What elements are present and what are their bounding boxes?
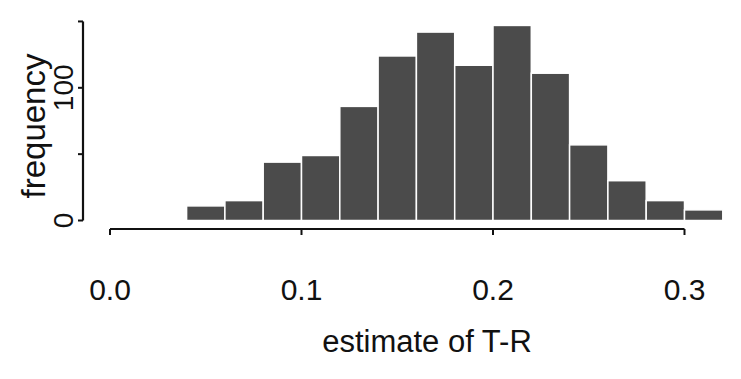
y-tick-label: 0 — [48, 213, 79, 229]
histogram-bar — [148, 219, 186, 220]
histogram-chart: 0.00.10.20.3 0100 estimate of T-R freque… — [0, 0, 741, 379]
histogram-bars — [110, 25, 723, 220]
histogram-bar — [531, 73, 569, 220]
histogram-bar — [302, 155, 340, 220]
x-tick-label: 0.3 — [664, 273, 706, 306]
histogram-bar — [263, 162, 301, 220]
histogram-bar — [570, 145, 608, 221]
x-tick-label: 0.0 — [89, 273, 131, 306]
histogram-bar — [340, 106, 378, 220]
histogram-bar — [110, 219, 148, 220]
histogram-bar — [646, 201, 684, 221]
y-axis-title: frequency — [15, 53, 52, 198]
y-axis-ticks: 0100 — [48, 21, 83, 228]
histogram-bar — [685, 210, 723, 221]
histogram-bar — [225, 201, 263, 221]
histogram-bar — [187, 206, 225, 221]
x-axis-ticks: 0.00.10.20.3 — [89, 229, 705, 306]
histogram-bar — [378, 56, 416, 221]
histogram-bar — [416, 32, 454, 220]
histogram-bar — [608, 181, 646, 221]
x-axis-title: estimate of T-R — [322, 324, 532, 359]
x-axis: 0.00.10.20.3 — [89, 229, 705, 306]
histogram-bar — [455, 65, 493, 220]
x-tick-label: 0.1 — [281, 273, 323, 306]
y-tick-label: 100 — [48, 64, 79, 111]
y-axis: 0100 — [48, 21, 83, 228]
histogram-bar — [493, 25, 531, 220]
x-tick-label: 0.2 — [472, 273, 514, 306]
